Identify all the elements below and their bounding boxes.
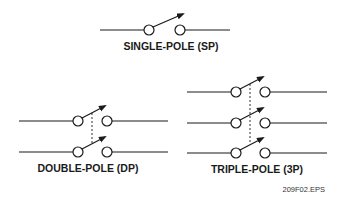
switch-diagram: SINGLE-POLE (SP) DOUBLE-POLE (DP) TR [0, 0, 342, 198]
triple-pole-label: TRIPLE-POLE (3P) [211, 163, 303, 175]
single-pole-switch [100, 14, 230, 35]
triple-pole-switch [187, 77, 327, 158]
figure-id: 209F02.EPS [282, 185, 325, 194]
double-pole-switch [19, 106, 168, 157]
single-pole-label: SINGLE-POLE (SP) [123, 40, 218, 52]
double-pole-label: DOUBLE-POLE (DP) [38, 162, 139, 174]
